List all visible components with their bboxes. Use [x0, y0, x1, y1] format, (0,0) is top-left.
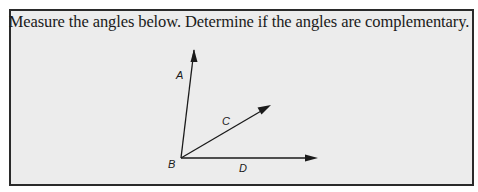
- label-c: C: [222, 115, 230, 127]
- ray-ba: [181, 50, 194, 158]
- label-b: B: [168, 158, 175, 170]
- arrow-d-icon: [305, 155, 318, 162]
- angle-figure: A B C D: [0, 0, 478, 192]
- arrow-c-icon: [258, 105, 272, 115]
- label-a: A: [175, 69, 183, 81]
- label-d: D: [239, 162, 247, 174]
- worksheet-page: Measure the angles below. Determine if t…: [0, 0, 478, 192]
- arrow-a-icon: [191, 49, 198, 62]
